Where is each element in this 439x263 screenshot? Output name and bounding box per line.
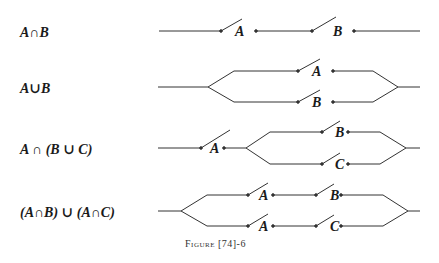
- switch-label: C: [330, 219, 340, 234]
- switch-label: B: [311, 95, 321, 110]
- circuit-diagram: A B A B A B: [0, 0, 439, 263]
- switch-label: A: [311, 64, 321, 79]
- circuit-row-3: A B C: [158, 121, 420, 172]
- circuit-row-4: A A B C: [158, 183, 420, 234]
- switch-label: A: [209, 141, 219, 156]
- figure-caption: Figure [74]-6: [185, 238, 246, 249]
- circuit-row-2: A B: [158, 59, 420, 110]
- switch-label: B: [334, 125, 344, 140]
- switch-label: A: [258, 219, 268, 234]
- circuit-row-1: A B: [159, 17, 420, 39]
- switch-label: A: [258, 188, 268, 203]
- switch-label: C: [335, 157, 345, 172]
- switch-label: B: [329, 188, 339, 203]
- switch-label: B: [332, 24, 342, 39]
- switch-label: A: [234, 24, 244, 39]
